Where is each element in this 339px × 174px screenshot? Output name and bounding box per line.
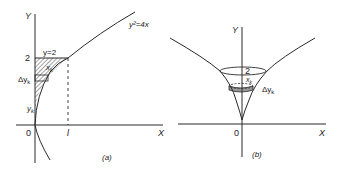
parabola-curve-a [35, 12, 135, 160]
hatched-region [35, 58, 68, 110]
delta-y-label-a: Δyk [18, 75, 31, 85]
x-axis-label-a: X [157, 128, 165, 138]
diagram-canvas: Y y²=4x 2 y=2 xk Δyk yk 0 l X (a) Y 2 xk… [0, 0, 339, 174]
caption-a: (a) [102, 153, 112, 162]
origin-label-a: 0 [26, 128, 31, 138]
yk-label: yk [26, 104, 35, 114]
y-tick-2: 2 [25, 53, 30, 63]
figure-b: Y 2 xk Δyk 0 X (b) [170, 25, 326, 159]
parabola-left-b [170, 38, 242, 120]
y-axis-label-a: Y [25, 11, 32, 21]
top-label-2: 2 [245, 66, 250, 76]
caption-b: (b) [252, 150, 262, 159]
parabola-right-b [242, 38, 315, 120]
disk-slab [229, 86, 253, 92]
curve-label: y²=4x [128, 20, 150, 29]
top-ellipse [220, 67, 266, 75]
x-tick-l: l [67, 128, 70, 138]
x-axis-label-b: X [318, 128, 326, 138]
figure-a: Y y²=4x 2 y=2 xk Δyk yk 0 l X (a) [16, 11, 165, 163]
y-axis-label-b: Y [232, 25, 239, 35]
origin-label-b: 0 [234, 128, 239, 138]
line-label-y2: y=2 [43, 48, 57, 57]
delta-y-label-b: Δyk [262, 85, 275, 95]
